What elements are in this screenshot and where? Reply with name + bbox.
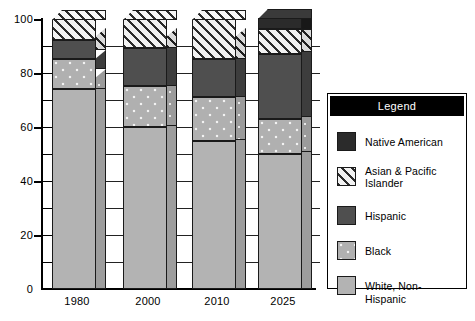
y-tick-minor-70 bbox=[41, 100, 52, 101]
legend-title: Legend bbox=[330, 96, 464, 116]
legend-label-black: Black bbox=[365, 245, 461, 258]
x-axis-label-2000: 2000 bbox=[118, 295, 178, 307]
bar-1980-segment-white bbox=[52, 89, 96, 289]
bar-2010-segment-black bbox=[192, 97, 236, 141]
y-tick-minor-10 bbox=[41, 262, 52, 263]
bar-2000-segment-asian bbox=[123, 19, 167, 48]
bar-2025-hispanic-side bbox=[301, 43, 312, 117]
y-tick-major-100 bbox=[34, 19, 42, 21]
bar-2025-segment-native-american bbox=[258, 18, 302, 29]
y-tick-minor-60b bbox=[41, 127, 52, 128]
y-axis-label-40: 40 bbox=[3, 175, 33, 187]
y-tick-minor-50 bbox=[41, 154, 52, 155]
gridline-gap1-50 bbox=[103, 154, 123, 155]
legend-swatch-native-american-icon bbox=[337, 132, 356, 151]
x-axis-label-2025: 2025 bbox=[253, 295, 313, 307]
y-tick-minor-80b bbox=[41, 73, 52, 74]
legend-swatch-white-non-hispanic-icon bbox=[337, 276, 356, 295]
y-axis-label-20: 20 bbox=[3, 229, 33, 241]
gridline-gap1-10 bbox=[103, 262, 123, 263]
legend-item-hispanic[interactable]: Hispanic bbox=[337, 204, 461, 234]
legend-label-asian-pacific-islander-line2: Islander bbox=[365, 177, 461, 190]
y-axis-label-0: 0 bbox=[3, 283, 33, 295]
bar-2000-segment-white bbox=[123, 127, 167, 289]
legend-swatch-asian-pacific-islander-icon bbox=[337, 167, 356, 186]
y-tick-minor-40b bbox=[41, 181, 52, 182]
legend-item-white-non-hispanic[interactable]: White, Non-Hispanic bbox=[337, 274, 461, 304]
y-axis-label-80: 80 bbox=[3, 67, 33, 79]
legend-label-white-non-hispanic: White, Non-Hispanic bbox=[365, 280, 461, 305]
bar-2025-segment-asian bbox=[258, 29, 302, 54]
x-axis-label-1980: 1980 bbox=[47, 295, 107, 307]
bar-2000-white-side bbox=[166, 116, 177, 289]
bar-2010-segment-white bbox=[192, 141, 236, 289]
gridline-gap1-20 bbox=[103, 235, 123, 236]
gridline-gap1-60 bbox=[103, 127, 123, 128]
gridline-gap1-40 bbox=[103, 181, 123, 182]
bar-2010-segment-asian bbox=[192, 19, 236, 59]
legend-label-hispanic: Hispanic bbox=[365, 210, 461, 223]
bar-2000-segment-hispanic bbox=[123, 48, 167, 86]
bar-2025-segment-black bbox=[258, 119, 302, 154]
bar-1980-segment-asian bbox=[52, 19, 96, 40]
legend-swatch-hispanic-icon bbox=[337, 206, 356, 225]
bar-2010-asian-side bbox=[235, 28, 246, 59]
legend-swatch-black-icon bbox=[337, 241, 356, 260]
bar-1980-hispanic-side bbox=[95, 50, 106, 69]
bar-2025-segment-hispanic bbox=[258, 54, 302, 119]
legend-item-black[interactable]: Black bbox=[337, 239, 461, 269]
bar-2010-white-side bbox=[235, 130, 246, 289]
y-axis-label-100: 100 bbox=[3, 13, 33, 25]
bar-1980-asian-side bbox=[95, 28, 106, 50]
bar-2000-asian-side bbox=[166, 28, 177, 48]
gridline-gap1-70 bbox=[103, 100, 123, 101]
gridline-gap1-30 bbox=[103, 208, 123, 209]
y-tick-minor-30 bbox=[41, 208, 52, 209]
legend-item-native-american[interactable]: Native American bbox=[337, 130, 461, 160]
bar-2000-segment-black bbox=[123, 86, 167, 127]
legend-entries: Native American Asian & Pacific Islander… bbox=[328, 118, 466, 288]
bar-1980-black-side bbox=[95, 69, 106, 89]
bar-1980-segment-black bbox=[52, 59, 96, 89]
bar-1980-segment-hispanic bbox=[52, 40, 96, 59]
bar-2010-segment-hispanic bbox=[192, 59, 236, 97]
legend-item-asian-pacific-islander[interactable]: Asian & Pacific Islander bbox=[337, 165, 461, 195]
bar-2025-white-side bbox=[301, 143, 312, 289]
bar-2010-top-face bbox=[192, 10, 246, 20]
legend-label-native-american: Native American bbox=[365, 136, 461, 149]
gridline-gap1-80 bbox=[103, 73, 123, 74]
bar-2025-top-face bbox=[258, 9, 312, 19]
bar-2025-segment-white bbox=[258, 154, 302, 289]
y-tick-minor-20b bbox=[41, 235, 52, 236]
gridline-gap1-90 bbox=[103, 46, 123, 47]
stacked-bar-chart: 100 80 60 40 20 0 bbox=[0, 0, 475, 321]
legend-label-asian-pacific-islander: Asian & Pacific bbox=[365, 165, 461, 178]
y-tick-minor-90 bbox=[41, 46, 52, 47]
bar-1980-top-face bbox=[52, 10, 106, 20]
x-axis-label-2010: 2010 bbox=[187, 295, 247, 307]
bar-2000-top-face bbox=[123, 10, 177, 20]
bar-1980-white-side bbox=[95, 78, 106, 289]
y-axis-label-60: 60 bbox=[3, 121, 33, 133]
legend-box: Legend Native American Asian & Pacific I… bbox=[327, 93, 467, 289]
plot-area: 100 80 60 40 20 0 bbox=[0, 0, 330, 321]
